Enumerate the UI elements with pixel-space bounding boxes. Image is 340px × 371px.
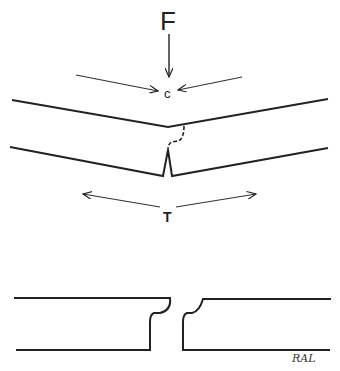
compression-label: c [164, 86, 171, 101]
crack-path [168, 126, 184, 150]
tension-arrow-right-icon [176, 194, 256, 207]
beam-fracture-diagram: F c T RAL [0, 0, 340, 371]
bent-beam-bottom-edge [10, 147, 328, 176]
bent-beam-top-edge [12, 99, 328, 127]
tension-label: T [163, 209, 172, 225]
force-label: F [160, 6, 176, 36]
artist-signature: RAL [291, 352, 316, 365]
compression-arrow-left-icon [76, 75, 158, 91]
compression-arrow-right-icon [178, 77, 242, 90]
fractured-beam-left-piece [14, 298, 170, 350]
tension-arrow-left-icon [83, 194, 160, 207]
fractured-beam-right-piece [183, 299, 331, 350]
